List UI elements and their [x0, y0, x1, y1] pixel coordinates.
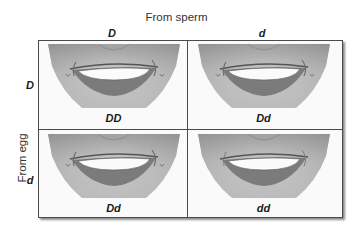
row-allele-label: d [22, 174, 38, 186]
smiling-face-dimples-image [198, 44, 330, 110]
from-sperm-label: From sperm [0, 11, 353, 23]
punnett-cell: DD [39, 41, 188, 129]
punnett-cell: Dd [189, 41, 338, 129]
smiling-face-dimples-image [48, 44, 180, 110]
genotype-label: dd [189, 202, 338, 214]
column-allele-label: D [92, 27, 132, 39]
genotype-label: Dd [39, 202, 188, 214]
horizontal-divider [38, 129, 343, 130]
column-allele-label: d [242, 27, 282, 39]
smiling-face-no-dimples-image [198, 134, 330, 200]
row-allele-label: D [22, 79, 38, 91]
punnett-cell: Dd [39, 131, 188, 219]
from-egg-label: From egg [16, 118, 28, 198]
genotype-label: Dd [189, 112, 338, 124]
genotype-label: DD [39, 112, 188, 124]
punnett-cell: dd [189, 131, 338, 219]
smiling-face-dimples-image [48, 134, 180, 200]
